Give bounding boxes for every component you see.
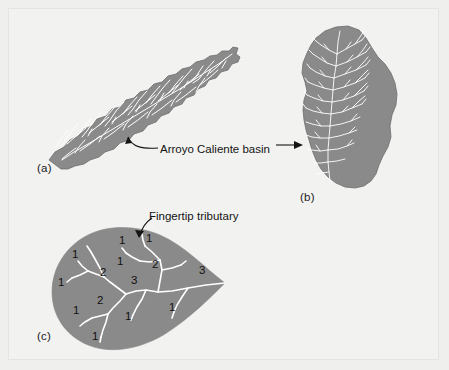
annotation-fingertip-tributary: Fingertip tributary (149, 210, 238, 222)
svg-text:1: 1 (125, 310, 131, 322)
svg-text:1: 1 (73, 304, 79, 316)
svg-text:1: 1 (119, 234, 125, 246)
svg-text:1: 1 (58, 276, 64, 288)
figure-drainage-basins: 1 1 2 1 2 1 1 1 1 2 3 1 1 3 (0, 0, 449, 370)
svg-text:1: 1 (117, 255, 123, 267)
panel-label-a: (a) (37, 162, 52, 174)
svg-text:2: 2 (100, 266, 106, 278)
svg-text:3: 3 (131, 274, 137, 286)
figure-artwork: 1 1 2 1 2 1 1 1 1 2 3 1 1 3 (0, 0, 449, 370)
svg-text:1: 1 (72, 248, 78, 260)
panel-label-c: (c) (37, 330, 51, 342)
panel-c-basin: 1 1 2 1 2 1 1 1 1 2 3 1 1 3 (52, 227, 225, 349)
svg-text:1: 1 (146, 232, 152, 244)
svg-text:1: 1 (92, 330, 98, 342)
annotation-arroyo-caliente-basin: Arroyo Caliente basin (160, 143, 270, 155)
svg-text:2: 2 (152, 258, 158, 270)
svg-text:2: 2 (97, 294, 103, 306)
basin-outline-c (52, 227, 225, 349)
svg-text:3: 3 (199, 264, 205, 276)
arrowhead-b (294, 141, 303, 149)
panel-b-basin (302, 26, 397, 188)
basin-outline-b (302, 26, 397, 188)
svg-text:1: 1 (169, 301, 175, 313)
panel-label-b: (b) (300, 191, 315, 203)
leader-line-a (128, 137, 158, 148)
